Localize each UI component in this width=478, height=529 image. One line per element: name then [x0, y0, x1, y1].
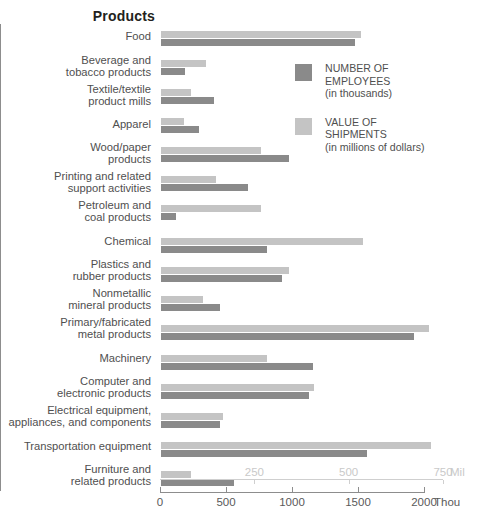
millions-axis-tick — [254, 480, 255, 484]
category-label: Machinery — [99, 352, 151, 364]
category-label: Food — [126, 30, 152, 42]
bar-number-of-employees — [161, 246, 267, 253]
bar-value-of-shipments — [161, 89, 191, 96]
thousands-axis-tick-label: 1500 — [333, 496, 383, 508]
bar-value-of-shipments — [161, 413, 223, 420]
bar-number-of-employees — [161, 421, 220, 428]
bar-value-of-shipments — [161, 205, 261, 212]
bar-number-of-employees — [161, 97, 214, 104]
bar-value-of-shipments — [161, 267, 289, 274]
bar-value-of-shipments — [161, 147, 261, 154]
bar-number-of-employees — [161, 392, 309, 399]
legend-swatch-icon — [295, 64, 312, 81]
bar-value-of-shipments — [161, 384, 314, 391]
thousands-unit-label: Thou — [434, 496, 460, 508]
thousands-axis-tick-label: 0 — [135, 496, 185, 508]
thousands-axis-tick-label: 500 — [201, 496, 251, 508]
millions-axis-tick-label: 500 — [324, 466, 374, 478]
legend: NUMBER OF EMPLOYEES (in thousands) VALUE… — [295, 62, 475, 170]
category-label: Furniture and related products — [71, 463, 151, 488]
page-title: Products — [93, 8, 155, 24]
bar-value-of-shipments — [161, 238, 363, 245]
category-label: Petroleum and coal products — [78, 199, 151, 224]
bar-value-of-shipments — [161, 325, 429, 332]
thousands-axis-tick-label: 1000 — [267, 496, 317, 508]
legend-item: NUMBER OF EMPLOYEES (in thousands) — [295, 62, 475, 100]
bar-number-of-employees — [161, 126, 199, 133]
millions-axis-tick — [443, 480, 444, 484]
category-label: Chemical — [104, 235, 151, 247]
category-label: Textile/textile product mills — [87, 83, 151, 108]
millions-axis-line — [160, 479, 443, 480]
category-label: Electrical equipment, appliances, and co… — [9, 404, 151, 429]
bar-number-of-employees — [161, 213, 176, 220]
thousands-axis-tick — [292, 487, 293, 492]
bar-number-of-employees — [161, 450, 367, 457]
category-label: Apparel — [112, 118, 151, 130]
bar-chart: Products Food Beverage and tobacco produ… — [0, 0, 478, 529]
bar-value-of-shipments — [161, 442, 431, 449]
bar-value-of-shipments — [161, 471, 191, 478]
bar-value-of-shipments — [161, 296, 203, 303]
bar-value-of-shipments — [161, 31, 361, 38]
thousands-axis-tick — [358, 487, 359, 492]
bar-number-of-employees — [161, 184, 248, 191]
legend-label: VALUE OF SHIPMENTS (in millions of dolla… — [325, 116, 475, 154]
bar-value-of-shipments — [161, 118, 184, 125]
thousands-axis-tick — [226, 487, 227, 492]
legend-swatch-icon — [295, 118, 312, 135]
category-label: Wood/paper products — [90, 141, 151, 166]
millions-unit-label: Mil — [450, 466, 465, 478]
category-label: Primary/fabricated metal products — [60, 316, 151, 341]
bar-number-of-employees — [161, 479, 234, 486]
category-label: Computer and electronic products — [57, 375, 151, 400]
thousands-axis-tick — [160, 487, 161, 492]
category-label: Beverage and tobacco products — [66, 54, 151, 79]
legend-item: VALUE OF SHIPMENTS (in millions of dolla… — [295, 116, 475, 154]
thousands-axis-line — [160, 492, 425, 493]
millions-axis-tick-label: 250 — [229, 466, 279, 478]
bar-number-of-employees — [161, 333, 414, 340]
category-label: Printing and related support activities — [54, 170, 151, 195]
category-label: Nonmetallic mineral products — [68, 287, 151, 312]
bar-number-of-employees — [161, 363, 313, 370]
bar-number-of-employees — [161, 304, 220, 311]
millions-axis-tick — [349, 480, 350, 484]
bar-value-of-shipments — [161, 176, 216, 183]
value-axis-spine — [0, 24, 1, 491]
bar-number-of-employees — [161, 68, 185, 75]
bar-number-of-employees — [161, 39, 355, 46]
category-label: Transportation equipment — [24, 440, 151, 452]
bar-number-of-employees — [161, 275, 282, 282]
bar-value-of-shipments — [161, 60, 206, 67]
bar-value-of-shipments — [161, 355, 267, 362]
thousands-axis-tick — [424, 487, 425, 492]
bar-number-of-employees — [161, 155, 289, 162]
legend-label: NUMBER OF EMPLOYEES (in thousands) — [325, 62, 475, 100]
category-label: Plastics and rubber products — [73, 258, 151, 283]
